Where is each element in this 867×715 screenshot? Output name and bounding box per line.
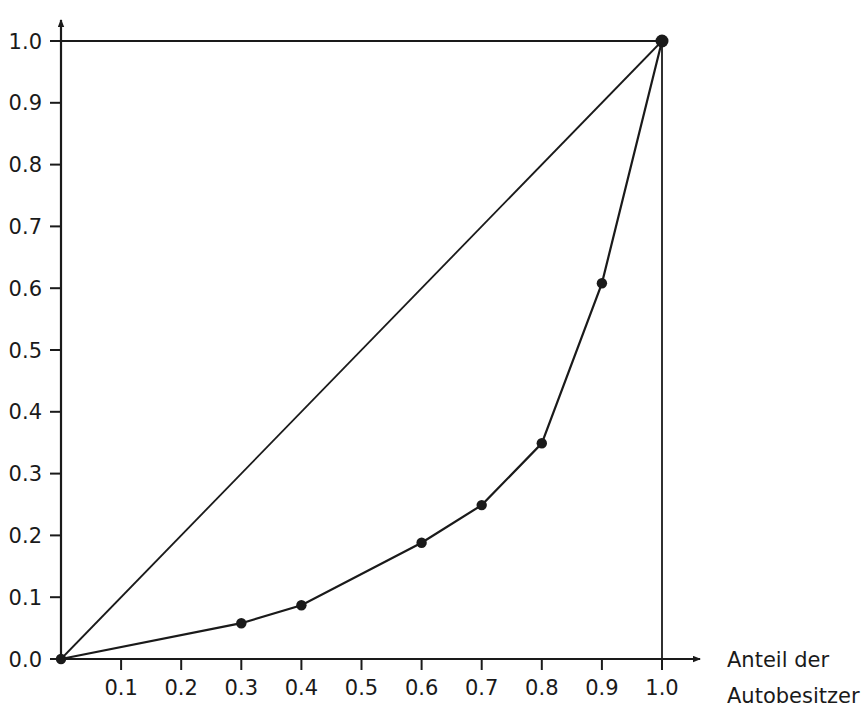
y-tick-label: 0.1 (9, 586, 42, 610)
x-tick-label: 0.4 (285, 676, 318, 700)
y-tick-label: 0.8 (9, 153, 42, 177)
data-point-marker (656, 35, 669, 48)
x-tick-label: 0.8 (525, 676, 558, 700)
y-tick-label: 0.4 (9, 400, 42, 424)
lorenz-curve-chart: 0.00.10.20.30.40.50.60.70.80.91.0 0.10.2… (0, 0, 867, 715)
y-tick-label: 0.6 (9, 277, 42, 301)
x-tick-label: 0.1 (104, 676, 137, 700)
x-axis-tick-labels: 0.10.20.30.40.50.60.70.80.91.0 (104, 676, 678, 700)
x-tick-label: 0.9 (585, 676, 618, 700)
data-point-marker (236, 618, 246, 628)
y-tick-label: 1.0 (9, 30, 42, 54)
x-tick-label: 1.0 (645, 676, 678, 700)
data-point-marker (296, 600, 306, 610)
y-axis-tick-labels: 0.00.10.20.30.40.50.60.70.80.91.0 (9, 30, 42, 672)
x-tick-label: 0.3 (225, 676, 258, 700)
x-tick-label: 0.2 (164, 676, 197, 700)
x-tick-label: 0.5 (345, 676, 378, 700)
x-axis-label-line-2: Autobesitzer (727, 684, 860, 708)
data-point-marker (597, 278, 607, 288)
x-axis-label-line-1: Anteil der (727, 648, 829, 672)
equality-line (61, 41, 662, 659)
y-axis-tick-marks (50, 41, 61, 659)
y-tick-label: 0.5 (9, 339, 42, 363)
chart-canvas: 0.00.10.20.30.40.50.60.70.80.91.0 0.10.2… (0, 0, 867, 715)
data-point-marker (537, 438, 547, 448)
data-point-marker (56, 654, 66, 664)
data-point-marker (416, 538, 426, 548)
y-tick-label: 0.9 (9, 91, 42, 115)
x-axis-tick-marks (121, 659, 662, 670)
x-tick-label: 0.6 (405, 676, 438, 700)
y-tick-label: 0.3 (9, 462, 42, 486)
data-point-marker (477, 500, 487, 510)
y-tick-label: 0.7 (9, 215, 42, 239)
y-tick-label: 0.2 (9, 524, 42, 548)
y-tick-label: 0.0 (9, 648, 42, 672)
x-tick-label: 0.7 (465, 676, 498, 700)
